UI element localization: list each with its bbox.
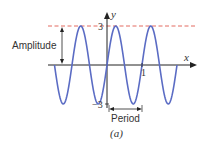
period-arrow-right-icon (137, 107, 142, 111)
y-tick-label-3: 3 (98, 21, 103, 32)
period-arrow-left-icon (109, 107, 114, 111)
amplitude-arrow-up-icon (60, 27, 64, 32)
y-tick-label-neg3: −3 (92, 99, 103, 110)
sine-graph: y x 3 −3 1 Amplitude Period (a) (0, 0, 201, 148)
x-tick-label-1: 1 (141, 67, 146, 78)
x-axis-arrow-icon (190, 62, 197, 68)
y-axis-label: y (110, 8, 116, 20)
figure-caption: (a) (110, 127, 123, 140)
amplitude-arrow-down-icon (60, 59, 64, 64)
x-axis-label: x (183, 51, 189, 63)
amplitude-label: Amplitude (12, 40, 57, 51)
y-axis-arrow-icon (104, 12, 110, 19)
period-label: Period (111, 113, 140, 124)
